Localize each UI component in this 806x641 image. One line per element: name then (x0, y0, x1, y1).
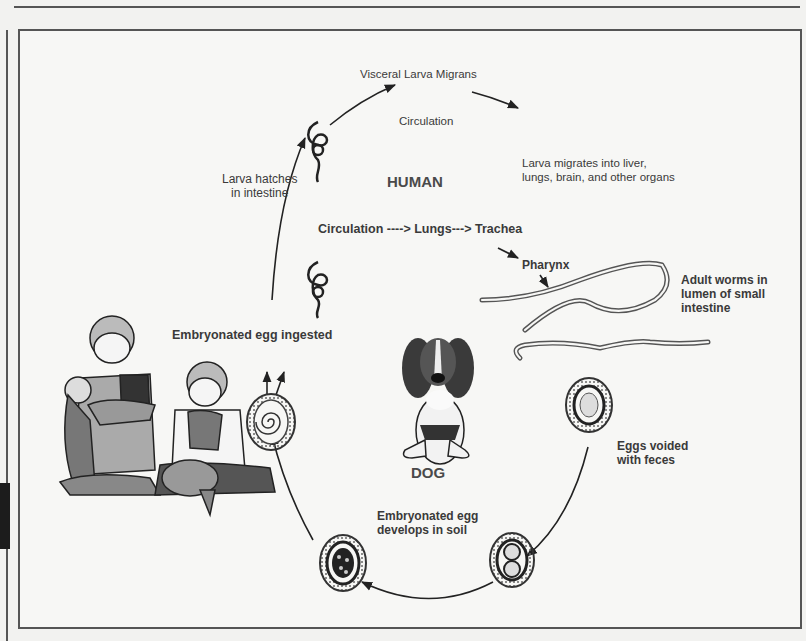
label-egg-ingested: Embryonated egg ingested (172, 328, 332, 342)
arrow-two-cell-to-morula (362, 582, 493, 599)
label-line: develops in soil (377, 523, 478, 537)
arrow-hatch-to-circulation (330, 85, 395, 125)
label-larva-hatches: Larva hatches in intestine (222, 172, 297, 200)
arrow-circulation-to-organs (472, 92, 518, 108)
label-lung-pathway: Circulation ----> Lungs---> Trachea (318, 222, 522, 236)
egg-unembryonated-icon (566, 378, 612, 432)
larva-icon (308, 262, 327, 318)
arrow-trachea-to-pharynx (498, 248, 518, 258)
label-adult-worms: Adult worms in lumen of small intestine (681, 273, 768, 315)
label-line: intestine (681, 301, 768, 315)
larva-icon (308, 122, 327, 182)
label-line: Larva hatches (222, 172, 297, 186)
children-illustration (60, 316, 275, 515)
label-line: Adult worms in (681, 273, 768, 287)
arrow-eggs-to-soil (527, 447, 588, 556)
arrow-egg-up-2 (276, 372, 284, 395)
egg-embryonated-icon (247, 394, 295, 450)
lifecycle-artwork (0, 0, 806, 641)
diagram-title: Visceral Larva Migrans (360, 67, 477, 81)
label-line: with feces (617, 453, 688, 467)
label-line: lungs, brain, and other organs (522, 170, 675, 184)
arrow-ingested-to-hatch (272, 138, 305, 300)
label-circulation: Circulation (399, 114, 453, 128)
label-egg-develops: Embryonated egg develops in soil (377, 509, 478, 537)
label-host-dog: DOG (411, 466, 445, 480)
egg-two-cell-icon (490, 533, 534, 587)
dog-illustration (402, 338, 474, 464)
egg-morula-icon (320, 535, 366, 591)
arrow-embryonated-to-child (272, 435, 313, 540)
label-eggs-voided: Eggs voided with feces (617, 439, 688, 467)
label-larva-migrates: Larva migrates into liver, lungs, brain,… (522, 156, 675, 184)
label-host-human: HUMAN (387, 175, 443, 189)
label-pharynx: Pharynx (522, 258, 569, 272)
label-line: Eggs voided (617, 439, 688, 453)
label-line: Larva migrates into liver, (522, 156, 675, 170)
label-line: Embryonated egg (377, 509, 478, 523)
arrow-pharynx-to-worm (540, 275, 548, 287)
label-line: lumen of small (681, 287, 768, 301)
label-line: in intestine (222, 186, 297, 200)
